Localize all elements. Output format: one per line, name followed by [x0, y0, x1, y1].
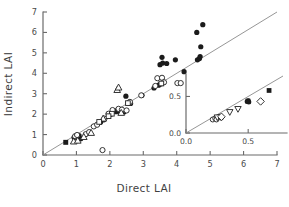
y-tick-label: 1 [32, 130, 37, 140]
marker-filled-square [246, 99, 251, 104]
marker-filled-square [63, 140, 68, 145]
marker-open-square [126, 101, 131, 106]
x-tick-label: 7 [274, 159, 279, 169]
marker-open-diamond [257, 98, 265, 106]
marker-filled-circle [198, 54, 203, 59]
inset-x-tick-label: 0.0 [180, 137, 192, 146]
y-tick-label: 3 [32, 89, 37, 99]
y-tick-label: 2 [32, 109, 37, 119]
main-data-points [63, 22, 205, 153]
x-tick-label: 0 [40, 159, 45, 169]
inset-y-tick-label: 0.5 [169, 92, 181, 101]
y-tick-label: 6 [32, 27, 37, 37]
marker-open-circle [139, 93, 144, 98]
y-tick-label: 7 [32, 7, 37, 17]
marker-open-circle [178, 80, 183, 85]
scatter-plot: 0123456701234567 0.00.50.00.5 Direct LAI… [0, 0, 289, 207]
marker-filled-square [267, 88, 272, 93]
inset-x-tick-label: 0.5 [242, 137, 254, 146]
x-tick-label: 2 [107, 159, 112, 169]
marker-open-square [159, 81, 164, 86]
marker-open-circle [74, 132, 79, 137]
x-axis-title: Direct LAI [116, 182, 171, 194]
y-axis-title: Indirect LAI [2, 52, 14, 116]
marker-filled-circle [194, 30, 199, 35]
y-tick-label: 5 [32, 48, 37, 58]
marker-filled-circle [123, 94, 128, 99]
marker-filled-circle [164, 61, 169, 66]
marker-open-circle [124, 108, 129, 113]
marker-open-circle [100, 147, 105, 152]
y-tick-label: 0 [32, 150, 37, 160]
marker-filled-circle [159, 55, 164, 60]
x-tick-label: 5 [208, 159, 213, 169]
marker-open-down-triangle [235, 107, 241, 113]
marker-open-circle [153, 83, 158, 88]
marker-open-square [106, 114, 111, 119]
figure-container: 0123456701234567 0.00.50.00.5 Direct LAI… [0, 0, 289, 207]
marker-open-down-triangle [227, 110, 233, 116]
marker-open-triangle [115, 84, 122, 90]
inset-one-to-one-line [186, 76, 283, 133]
x-tick-label: 4 [174, 159, 179, 169]
inset-data-points [210, 88, 271, 122]
inset-one-to-one-line-segment [186, 76, 283, 133]
x-tick-label: 1 [74, 159, 79, 169]
inset-y-tick-label: 0.0 [169, 129, 181, 138]
x-tick-label: 6 [241, 159, 246, 169]
marker-open-square [97, 120, 102, 125]
y-tick-label: 4 [32, 68, 37, 78]
marker-filled-circle [198, 44, 203, 49]
marker-filled-circle [173, 57, 178, 62]
x-tick-label: 3 [141, 159, 146, 169]
marker-filled-circle [200, 22, 205, 27]
